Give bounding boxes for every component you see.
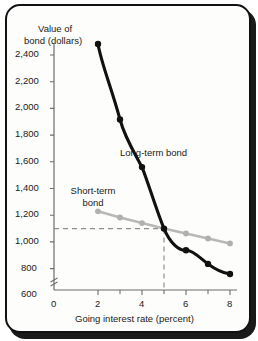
y-tick-label-1400: 1,400 xyxy=(15,183,39,194)
y-tick-label-2400: 2,400 xyxy=(15,49,39,60)
y-axis-title-line1: Value of xyxy=(38,24,72,35)
x-axis-title: Going interest rate (percent) xyxy=(75,314,194,325)
x-tick-label-2: 2 xyxy=(95,299,100,310)
intersection-guide xyxy=(54,229,164,290)
y-axis-title-line2: bond (dollars) xyxy=(24,36,82,47)
y-tick-label-2000: 2,000 xyxy=(15,102,39,113)
x-tick-label-6: 6 xyxy=(183,299,188,310)
y-tick-label-800: 800 xyxy=(21,263,37,274)
y-tick-label-1200: 1,200 xyxy=(15,209,39,220)
plot-area xyxy=(7,6,251,333)
x-tick-label-8: 8 xyxy=(227,299,232,310)
series-label-short-term-bond-line1: Short-term xyxy=(62,186,124,197)
y-tick-label-2200: 2,200 xyxy=(15,76,39,87)
axes xyxy=(54,44,237,290)
y-tick-label-600: 600 xyxy=(21,289,37,300)
chart-figure: Value of bond (dollars) 2,400 2,200 2,00… xyxy=(0,0,258,341)
y-tick-label-1000: 1,000 xyxy=(15,236,39,247)
x-tick-label-4: 4 xyxy=(139,299,144,310)
y-tick-label-1800: 1,800 xyxy=(15,129,39,140)
x-axis-ticks xyxy=(98,290,230,295)
chart-svg xyxy=(7,6,251,333)
chart-card: Value of bond (dollars) 2,400 2,200 2,00… xyxy=(5,4,251,333)
y-tick-label-1600: 1,600 xyxy=(15,156,39,167)
series-label-short-term-bond-line2: bond xyxy=(62,198,124,209)
series-label-long-term-bond: Long-term bond xyxy=(120,148,187,159)
x-tick-label-0: 0 xyxy=(51,299,56,310)
